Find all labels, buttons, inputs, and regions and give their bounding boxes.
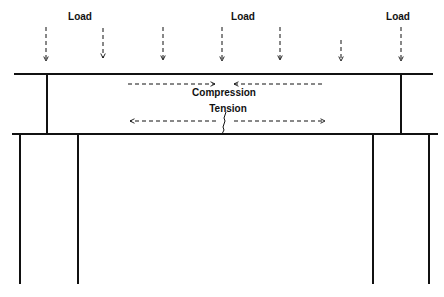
crack-icon — [222, 112, 226, 134]
load-label-right: Load — [386, 12, 410, 22]
load-arrows — [46, 27, 401, 61]
compression-label: Compression — [192, 88, 256, 98]
tension-label: Tension — [209, 104, 247, 114]
load-label-left: Load — [68, 12, 92, 22]
load-label-center: Load — [231, 12, 255, 22]
beam-diagram — [0, 0, 444, 297]
columns — [20, 134, 429, 284]
